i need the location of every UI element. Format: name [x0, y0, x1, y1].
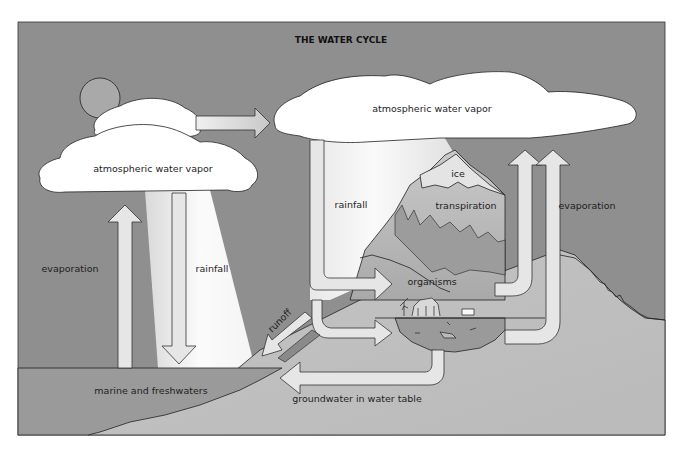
diagram-title: THE WATER CYCLE — [295, 35, 387, 45]
label-ice: ice — [451, 168, 465, 179]
label-cloud-left: atmospheric water vapor — [93, 163, 213, 174]
label-evaporation-left: evaporation — [41, 263, 98, 274]
label-groundwater: groundwater in water table — [292, 393, 422, 404]
label-evaporation-right: evaporation — [558, 200, 615, 211]
label-rainfall-left: rainfall — [196, 263, 229, 274]
water-cycle-diagram: THE WATER CYCLE atmospheric water vapor … — [0, 0, 683, 451]
label-rainfall-right: rainfall — [335, 199, 368, 210]
label-transpiration: transpiration — [435, 200, 496, 211]
label-cloud-right: atmospheric water vapor — [372, 103, 492, 114]
label-organisms: organisms — [407, 276, 456, 287]
goat-icon — [462, 309, 474, 315]
label-marine: marine and freshwaters — [94, 385, 207, 396]
